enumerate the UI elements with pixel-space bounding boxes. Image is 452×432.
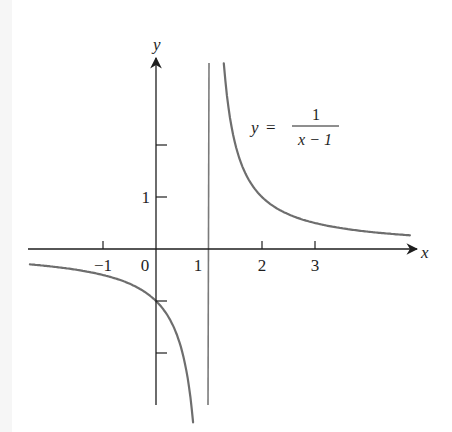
equation-equals: = [266, 118, 276, 137]
x-tick-label: 0 [141, 256, 150, 275]
y-axis-label: y [151, 35, 161, 54]
scan-edge-strip [0, 0, 12, 432]
equation-annotation: y = 1 x − 1 [249, 106, 339, 148]
equation-lhs: y [249, 118, 259, 137]
x-axis-label: x [420, 243, 429, 262]
x-tick-label: −1 [94, 256, 112, 275]
y-tick-label: 1 [142, 188, 151, 207]
x-tick-label: 3 [311, 256, 320, 275]
x-tick-label: 2 [258, 256, 267, 275]
curve-right-branch [224, 63, 410, 235]
chart-figure: −10123 1 x y y = 1 x − 1 [0, 0, 452, 432]
equation-numerator: 1 [312, 106, 320, 123]
equation-denominator: x − 1 [297, 131, 332, 148]
curve-group [30, 63, 410, 422]
chart-canvas: −10123 1 x y y = 1 x − 1 [0, 0, 452, 432]
curve-left-branch [30, 264, 193, 422]
vertical-asymptote [208, 63, 209, 405]
x-tick-label: 1 [194, 256, 203, 275]
x-ticks: −10123 [94, 241, 319, 275]
